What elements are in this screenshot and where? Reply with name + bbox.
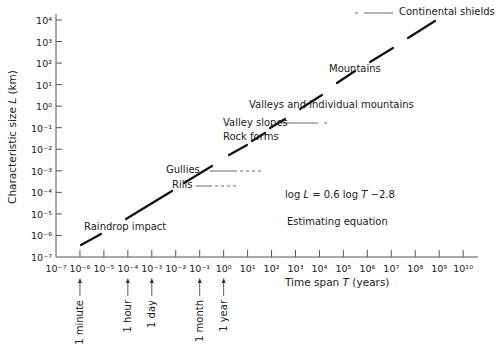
x-tick-label: 10⁶ bbox=[359, 263, 375, 274]
arrow-up-icon bbox=[198, 278, 202, 283]
x-tick-label: 10¹⁰ bbox=[453, 263, 473, 274]
y-tick-label: 10⁻⁷ bbox=[31, 252, 52, 263]
label-raindrop-impact: Raindrop impact bbox=[84, 221, 166, 232]
x-tick-label: 10¹ bbox=[240, 263, 256, 274]
x-tick-label: 10⁻⁵ bbox=[93, 263, 114, 274]
time-markers: 1 minute1 hour1 day1 month1 year bbox=[74, 278, 229, 345]
label-valley-slopes: Valley slopes bbox=[223, 117, 288, 128]
y-tick-label: 10⁴ bbox=[36, 15, 52, 26]
svg-text:1 year: 1 year bbox=[218, 299, 229, 332]
arrow-up-icon bbox=[78, 278, 82, 283]
x-tick-label: 10⁻¹ bbox=[189, 263, 210, 274]
x-tick-label: 10⁻⁴ bbox=[117, 263, 138, 274]
y-tick-label: 10⁻¹ bbox=[31, 123, 52, 134]
y-tick-label: 10⁰ bbox=[36, 101, 52, 112]
x-tick-label: 10⁻³ bbox=[141, 263, 162, 274]
label-mountains: Mountains bbox=[329, 63, 381, 74]
time-marker: 1 hour bbox=[122, 278, 133, 332]
equation-caption: Estimating equation bbox=[287, 216, 388, 227]
svg-text:1 hour: 1 hour bbox=[122, 299, 133, 332]
x-tick-label: 10⁻² bbox=[165, 263, 186, 274]
label-continental-shields: Continental shields bbox=[399, 6, 495, 17]
x-tick-label: 10⁻⁷ bbox=[46, 263, 67, 274]
x-tick-label: 10⁷ bbox=[383, 263, 399, 274]
arrow-up-icon bbox=[222, 278, 226, 283]
svg-text:1 minute: 1 minute bbox=[74, 300, 85, 345]
y-tick-label: 10⁻⁶ bbox=[31, 230, 52, 241]
x-tick-label: 10⁻⁶ bbox=[69, 263, 90, 274]
y-tick-label: 10¹ bbox=[36, 80, 52, 91]
time-marker: 1 minute bbox=[74, 278, 85, 345]
y-tick-label: 10⁻⁴ bbox=[31, 187, 52, 198]
label-valleys-mountains: Valleys and individual mountains bbox=[249, 99, 414, 110]
x-tick-label: 10⁵ bbox=[335, 263, 351, 274]
y-tick-label: 10² bbox=[36, 58, 52, 69]
y-ticks: 10⁻⁷10⁻⁶10⁻⁵10⁻⁴10⁻³10⁻²10⁻¹10⁰10¹10²10³… bbox=[31, 15, 62, 263]
y-tick-label: 10⁻³ bbox=[31, 166, 52, 177]
y-tick-label: 10⁻² bbox=[31, 144, 52, 155]
arrow-up-icon bbox=[150, 278, 154, 283]
label-gullies: Gullies bbox=[166, 164, 200, 175]
arrow-up-icon bbox=[126, 278, 130, 283]
x-tick-label: 10² bbox=[264, 263, 280, 274]
y-tick-label: 10⁻⁵ bbox=[31, 209, 52, 220]
x-tick-label: 10⁰ bbox=[216, 263, 232, 274]
svg-text:1 month: 1 month bbox=[194, 300, 205, 342]
x-ticks: 10⁻⁷10⁻⁶10⁻⁵10⁻⁴10⁻³10⁻²10⁻¹10⁰10¹10²10³… bbox=[46, 250, 474, 274]
x-tick-label: 10⁴ bbox=[311, 263, 327, 274]
y-axis-label: Characteristic size L (km) bbox=[6, 70, 18, 204]
x-axis-label: Time span T (years) bbox=[284, 276, 389, 288]
x-tick-label: 10³ bbox=[288, 263, 304, 274]
svg-text:1 day: 1 day bbox=[146, 300, 157, 328]
label-rills: Rills bbox=[172, 179, 193, 190]
chart: 10⁻⁷10⁻⁶10⁻⁵10⁻⁴10⁻³10⁻²10⁻¹10⁰10¹10²10³… bbox=[0, 0, 500, 357]
time-marker: 1 month bbox=[194, 278, 205, 342]
x-tick-label: 10⁸ bbox=[407, 263, 423, 274]
y-tick-label: 10³ bbox=[36, 37, 52, 48]
x-tick-label: 10⁹ bbox=[431, 263, 447, 274]
equation: log L = 0.6 log T −2.8 bbox=[285, 189, 395, 200]
time-marker: 1 day bbox=[146, 278, 157, 328]
time-marker: 1 year bbox=[218, 278, 229, 332]
label-rock-forms: Rock forms bbox=[223, 131, 279, 142]
